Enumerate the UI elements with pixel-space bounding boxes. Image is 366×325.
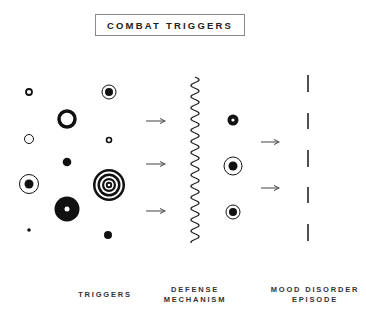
label-mood-disorder-episode: MOOD DISORDER EPISODE bbox=[265, 285, 365, 305]
label-mood-line2: EPISODE bbox=[265, 295, 365, 305]
processed-target-small bbox=[226, 205, 240, 219]
trigger-open-circle bbox=[25, 135, 34, 144]
label-triggers: TRIGGERS bbox=[50, 290, 160, 300]
processed-donut bbox=[228, 115, 239, 126]
label-defense-line1: DEFENSE bbox=[150, 285, 240, 295]
label-mood-line1: MOOD DISORDER bbox=[265, 285, 365, 295]
trigger-concentric-rings bbox=[93, 169, 125, 201]
processed-target-large bbox=[224, 157, 242, 175]
trigger-target bbox=[20, 175, 39, 194]
trigger-dot-2 bbox=[104, 231, 112, 239]
trigger-small-ring bbox=[26, 89, 32, 95]
label-defense-line2: MECHANISM bbox=[150, 295, 240, 305]
trigger-thick-ring bbox=[59, 111, 75, 127]
trigger-tiny-dot bbox=[27, 228, 31, 232]
trigger-target-small bbox=[102, 85, 116, 99]
trigger-small-ring-2 bbox=[107, 138, 112, 143]
diagram-canvas bbox=[0, 0, 366, 325]
trigger-thick-donut bbox=[55, 197, 80, 222]
defense-mechanism-wavy-line bbox=[191, 77, 199, 243]
label-defense-mechanism: DEFENSE MECHANISM bbox=[150, 285, 240, 305]
trigger-dot bbox=[63, 158, 72, 167]
label-triggers-text: TRIGGERS bbox=[78, 290, 132, 299]
